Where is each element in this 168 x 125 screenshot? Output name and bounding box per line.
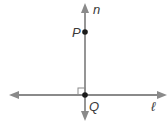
line-n [81,3,89,121]
label-point-p: P [72,26,81,39]
point-p [82,29,88,35]
diagram-canvas [0,0,168,125]
arrow-left-icon [9,91,19,99]
arrow-right-icon [157,91,167,99]
line-l [9,91,167,99]
label-point-q: Q [89,100,99,113]
label-line-n: n [93,3,100,16]
label-line-l: ℓ [151,100,155,113]
arrow-up-icon [81,3,89,13]
point-q [82,92,88,98]
arrow-down-icon [81,111,89,121]
